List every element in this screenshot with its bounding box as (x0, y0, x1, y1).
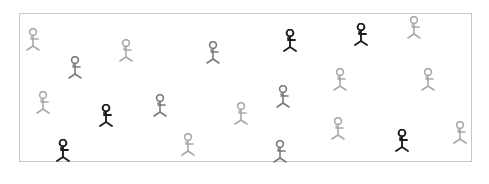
stick-figure-icon (177, 133, 199, 161)
stick-figure-icon (417, 68, 439, 96)
stick-figure-icon (391, 129, 413, 157)
stick-figure-icon (149, 94, 171, 122)
stick-figure-icon (22, 28, 44, 56)
stick-figure-icon (449, 121, 471, 149)
stick-figure-icon (52, 139, 74, 167)
stick-figure-icon (350, 23, 372, 51)
stick-figure-icon (269, 140, 291, 168)
stick-figure-icon (279, 29, 301, 57)
stick-figure-icon (272, 85, 294, 113)
stick-figure-icon (327, 117, 349, 145)
stick-figure-icon (95, 104, 117, 132)
stick-figure-icon (64, 56, 86, 84)
stick-figure-icon (230, 102, 252, 130)
stick-figure-canvas (0, 0, 489, 184)
stick-figure-icon (329, 68, 351, 96)
stick-figure-icon (32, 91, 54, 119)
stick-figure-icon (115, 39, 137, 67)
stick-figure-icon (202, 41, 224, 69)
stick-figure-icon (403, 16, 425, 44)
